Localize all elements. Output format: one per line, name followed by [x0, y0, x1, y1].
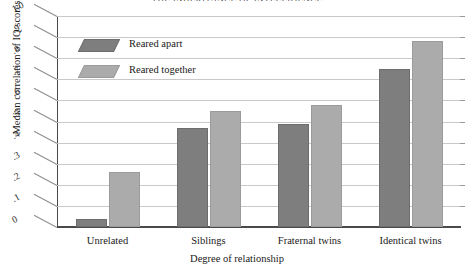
bar-fraternal-twins-reared-together: [311, 105, 342, 227]
gridline-1.0: [57, 16, 461, 17]
bar-unrelated-reared-apart: [76, 219, 107, 227]
depth-tick-.2: [34, 173, 57, 186]
right-tick-.6: [460, 100, 465, 101]
bar-fraternal-twins-reared-apart: [278, 124, 309, 227]
depth-tick-.5: [34, 109, 57, 122]
depth-tick-.7: [34, 67, 57, 80]
right-tick-.3: [460, 164, 465, 165]
right-tick-.1: [460, 206, 465, 207]
legend-swatch-reared-together: [78, 65, 120, 78]
x-tick-label-fraternal-twins: Fraternal twins: [259, 235, 360, 246]
x-tick-label-identical-twins: Identical twins: [360, 235, 461, 246]
plot-area: 0.1.2.3.4.5.6.7.8.91.0 Reared apartReare…: [57, 16, 461, 227]
y-tick-label-0: 0: [10, 214, 19, 225]
y-tick-label-.1: .1: [10, 192, 21, 204]
gridline-.8: [57, 58, 461, 59]
right-tick-.9: [460, 37, 465, 38]
bar-unrelated-reared-together: [109, 172, 140, 227]
right-tick-.8: [460, 58, 465, 59]
depth-tick-.1: [34, 194, 57, 207]
right-tick-.4: [460, 143, 465, 144]
bar-identical-twins-reared-together: [412, 41, 443, 227]
right-tick-.7: [460, 79, 465, 80]
legend-swatch-reared-apart: [78, 39, 120, 52]
depth-tick-.8: [34, 46, 57, 59]
bar-identical-twins-reared-apart: [379, 69, 410, 227]
depth-tick-1.0: [34, 4, 57, 17]
right-tick-1.0: [460, 16, 465, 17]
y-tick-label-.3: .3: [10, 150, 21, 162]
depth-tick-.4: [34, 130, 57, 143]
depth-tick-.9: [34, 25, 57, 38]
depth-tick-0: [34, 215, 57, 228]
x-tick-label-unrelated: Unrelated: [57, 235, 158, 246]
depth-tick-.6: [34, 88, 57, 101]
legend-label-reared-together: Reared together: [129, 64, 196, 75]
right-tick-.2: [460, 185, 465, 186]
depth-tick-.3: [34, 152, 57, 165]
y-tick-label-.2: .2: [10, 171, 21, 183]
right-tick-.5: [460, 122, 465, 123]
gridline-.9: [57, 37, 461, 38]
gridline-0: [57, 227, 461, 228]
legend-label-reared-apart: Reared apart: [129, 38, 182, 49]
bar-siblings-reared-together: [210, 111, 241, 227]
x-axis-title: Degree of relationship: [0, 253, 474, 264]
chart-title: THE INHERITANCE OF INTELLIGENCE: [0, 0, 474, 1]
x-tick-label-siblings: Siblings: [158, 235, 259, 246]
bar-siblings-reared-apart: [177, 128, 208, 227]
